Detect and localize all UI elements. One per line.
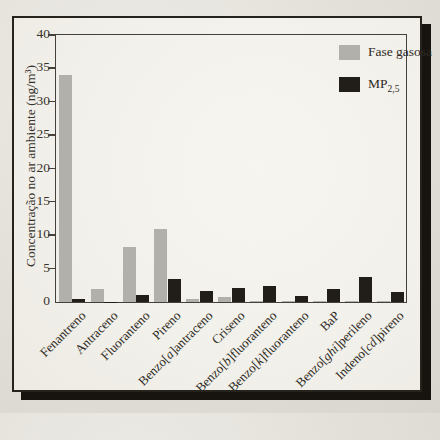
y-tick-mark <box>48 134 55 136</box>
y-tick-mark <box>48 67 55 69</box>
bar-mp25 <box>359 277 372 302</box>
y-tick-label: 20 <box>14 159 50 177</box>
bar-fase-gasosa <box>186 299 199 302</box>
y-tick-label: 30 <box>14 92 50 110</box>
y-tick-label: 35 <box>14 58 50 76</box>
legend-swatch-fase-gasosa <box>339 45 360 60</box>
legend-item-mp25: MP2,5 <box>339 76 432 94</box>
bar-fase-gasosa <box>377 301 390 302</box>
bar-mp25 <box>200 291 213 302</box>
bar-mp25 <box>168 279 181 302</box>
bar-fase-gasosa <box>345 301 358 302</box>
legend-swatch-mp25 <box>339 77 360 92</box>
legend-label-mp25-base: MP <box>368 76 388 91</box>
legend-label-fase-gasosa: Fase gasosa <box>368 44 432 60</box>
legend-label-mp25: MP2,5 <box>368 76 399 94</box>
bar-fase-gasosa <box>123 247 136 302</box>
bar-fase-gasosa <box>154 229 167 302</box>
bar-fase-gasosa <box>282 301 295 302</box>
y-tick-mark <box>48 101 55 103</box>
y-tick-mark <box>48 234 55 236</box>
bar-mp25 <box>263 286 276 302</box>
bar-mp25 <box>72 299 85 302</box>
y-tick-mark <box>48 268 55 270</box>
plot-area: Fase gasosa MP2,5 <box>55 34 407 303</box>
bar-fase-gasosa <box>91 289 104 302</box>
bar-fase-gasosa <box>250 301 263 302</box>
legend: Fase gasosa MP2,5 <box>339 44 432 110</box>
y-tick-label: 5 <box>14 259 50 277</box>
legend-label-mp25-subscript: 2,5 <box>388 84 400 94</box>
bar-mp25 <box>327 289 340 302</box>
legend-item-fase-gasosa: Fase gasosa <box>339 44 432 60</box>
bar-mp25 <box>391 292 404 302</box>
y-tick-label: 25 <box>14 125 50 143</box>
bar-fase-gasosa <box>313 301 326 302</box>
y-tick-mark <box>48 168 55 170</box>
y-tick-mark <box>48 201 55 203</box>
y-tick-label: 10 <box>14 225 50 243</box>
y-tick-label: 0 <box>14 292 50 310</box>
bar-mp25 <box>295 296 308 302</box>
figure-frame: Concentração no ar ambiente (ng/m³) Fase… <box>12 16 422 392</box>
bar-mp25 <box>136 295 149 302</box>
bar-chart: Concentração no ar ambiente (ng/m³) Fase… <box>14 18 420 390</box>
bar-fase-gasosa <box>59 75 72 302</box>
y-tick-label: 40 <box>14 25 50 43</box>
bar-fase-gasosa <box>218 297 231 302</box>
bar-mp25 <box>232 288 245 302</box>
y-tick-label: 15 <box>14 192 50 210</box>
y-tick-mark <box>48 34 55 36</box>
